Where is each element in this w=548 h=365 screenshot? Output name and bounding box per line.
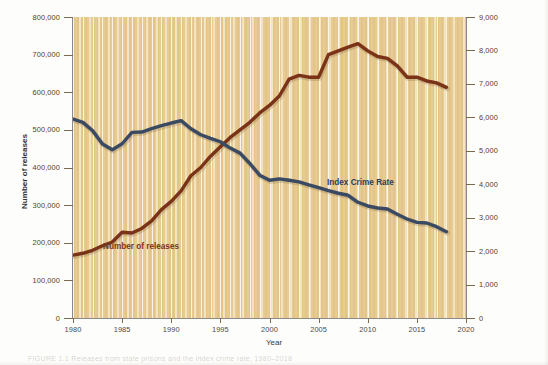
right-tick-label-7000: 7,000 — [479, 79, 498, 88]
right-axis-line — [466, 17, 467, 319]
right-tick-label-9000: 9,000 — [479, 13, 498, 22]
left-tick-label-100000: 100,000 — [0, 276, 60, 285]
right-tick-8000 — [466, 50, 475, 51]
left-tick-700000 — [64, 55, 73, 56]
figure-caption: FIGURE 1.1 Releases from state prisons a… — [28, 354, 292, 363]
right-tick-label-0: 0 — [479, 314, 483, 323]
left-axis-title: Number of releases — [20, 112, 29, 232]
x-tick-1995 — [220, 318, 221, 323]
x-tick-label-2005: 2005 — [310, 325, 327, 334]
x-tick-label-2020: 2020 — [458, 325, 475, 334]
right-tick-label-3000: 3,000 — [479, 213, 498, 222]
right-tick-2000 — [466, 251, 475, 252]
right-tick-5000 — [466, 151, 475, 152]
x-tick-label-1990: 1990 — [163, 325, 180, 334]
left-tick-600000 — [64, 92, 73, 93]
left-tick-500000 — [64, 130, 73, 131]
plot-area — [73, 17, 466, 318]
x-tick-1990 — [171, 318, 172, 323]
x-tick-2005 — [319, 318, 320, 323]
right-tick-label-1000: 1,000 — [479, 280, 498, 289]
right-tick-0 — [466, 318, 475, 319]
series-shadow-number-of-releases — [74, 45, 447, 256]
x-tick-label-1995: 1995 — [212, 325, 229, 334]
left-tick-label-400000: 400,000 — [0, 163, 60, 172]
left-tick-label-700000: 700,000 — [0, 50, 60, 59]
x-tick-label-2015: 2015 — [408, 325, 425, 334]
right-tick-7000 — [466, 84, 475, 85]
x-tick-2015 — [417, 318, 418, 323]
x-tick-1985 — [122, 318, 123, 323]
right-tick-4000 — [466, 184, 475, 185]
left-tick-label-300000: 300,000 — [0, 201, 60, 210]
left-tick-800000 — [64, 17, 73, 18]
left-tick-0 — [64, 318, 73, 319]
scan-edge-right — [544, 0, 548, 365]
left-tick-label-500000: 500,000 — [0, 125, 60, 134]
x-tick-label-2010: 2010 — [359, 325, 376, 334]
series-line-index-crime-rate — [73, 119, 446, 232]
x-tick-label-1980: 1980 — [65, 325, 82, 334]
right-tick-6000 — [466, 117, 475, 118]
annotation-number-of-releases: Number of releases — [103, 242, 179, 251]
x-axis-title: Year — [0, 338, 548, 347]
left-tick-400000 — [64, 168, 73, 169]
left-tick-label-0: 0 — [0, 314, 60, 323]
right-tick-label-8000: 8,000 — [479, 46, 498, 55]
x-tick-2000 — [270, 318, 271, 323]
left-tick-label-200000: 200,000 — [0, 238, 60, 247]
right-tick-3000 — [466, 218, 475, 219]
x-tick-label-2000: 2000 — [261, 325, 278, 334]
right-tick-label-4000: 4,000 — [479, 180, 498, 189]
x-tick-2020 — [466, 318, 467, 323]
left-tick-300000 — [64, 205, 73, 206]
right-tick-label-5000: 5,000 — [479, 146, 498, 155]
series-lines — [73, 17, 466, 318]
x-tick-label-1985: 1985 — [114, 325, 131, 334]
annotation-index-crime-rate: Index Crime Rate — [327, 178, 394, 187]
series-line-number-of-releases — [73, 44, 446, 255]
left-tick-label-600000: 600,000 — [0, 88, 60, 97]
left-tick-200000 — [64, 243, 73, 244]
right-tick-1000 — [466, 285, 475, 286]
left-tick-100000 — [64, 280, 73, 281]
left-tick-label-800000: 800,000 — [0, 13, 60, 22]
right-tick-9000 — [466, 17, 475, 18]
right-tick-label-2000: 2,000 — [479, 247, 498, 256]
x-tick-2010 — [368, 318, 369, 323]
right-tick-label-6000: 6,000 — [479, 113, 498, 122]
figure-container: 0100,000200,000300,000400,000500,000600,… — [0, 0, 548, 365]
x-tick-1980 — [73, 318, 74, 323]
